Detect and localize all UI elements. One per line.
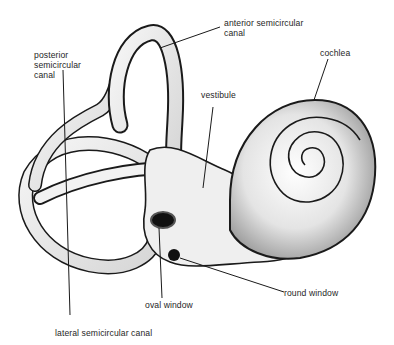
label-posterior-line2: semicircular xyxy=(34,60,81,70)
label-anterior-semicircular-canal: anterior semicircular canal xyxy=(224,18,303,38)
label-anterior-line1: anterior semicircular xyxy=(224,18,303,28)
oval-window xyxy=(151,212,175,228)
label-posterior-semicircular-canal: posterior semicircular canal xyxy=(34,50,81,80)
label-posterior-line1: posterior xyxy=(34,50,81,60)
round-window xyxy=(168,249,180,261)
inner-ear-diagram: posterior semicircular canal anterior se… xyxy=(0,0,394,345)
label-round-window: round window xyxy=(284,288,338,298)
label-cochlea: cochlea xyxy=(320,48,350,58)
posterior-semicircular-canal xyxy=(35,70,120,185)
label-anterior-line2: canal xyxy=(224,28,303,38)
label-vestibule: vestibule xyxy=(201,90,236,100)
label-lateral-semicircular-canal: lateral semicircular canal xyxy=(55,328,152,338)
label-posterior-line3: canal xyxy=(34,70,81,80)
cochlea-shape xyxy=(230,100,375,259)
label-oval-window: oval window xyxy=(145,300,193,310)
